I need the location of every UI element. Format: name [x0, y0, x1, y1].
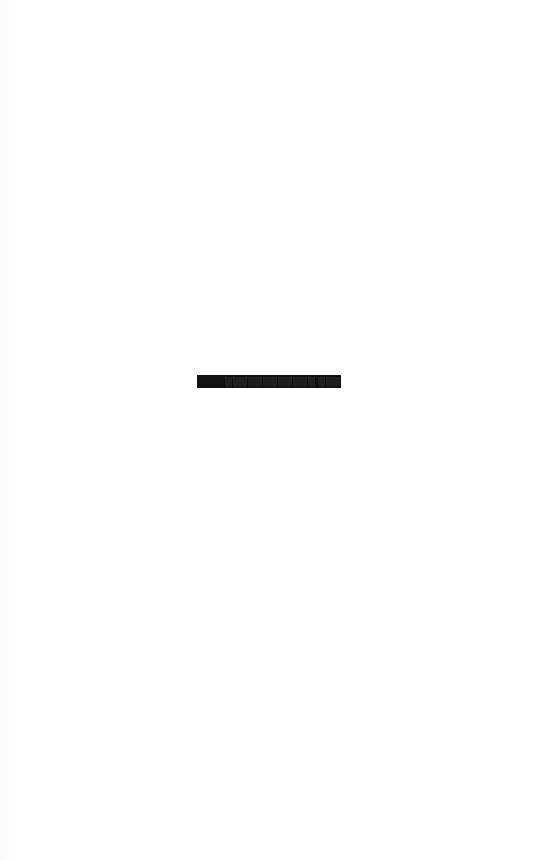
- redacted-text: ▇▇▇▇▇▇▇▇▇▇▇▇ ▇▇▇▇▇: [197, 375, 341, 388]
- left-edge-artifact: [0, 0, 14, 860]
- blank-page: ▇▇▇▇▇▇▇▇▇▇▇▇ ▇▇▇▇▇: [0, 0, 539, 860]
- redacted-text-bar: ▇▇▇▇▇▇▇▇▇▇▇▇ ▇▇▇▇▇: [197, 375, 341, 388]
